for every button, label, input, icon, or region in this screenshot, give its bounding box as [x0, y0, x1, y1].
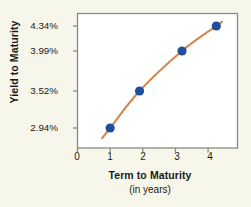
data-point-2 — [177, 46, 186, 55]
data-point-1 — [135, 86, 144, 95]
data-point-0 — [106, 123, 115, 132]
x-tick-marks — [78, 148, 209, 153]
y-tick-marks — [73, 26, 78, 128]
plot-area — [0, 0, 251, 207]
chart-figure: Yield to Maturity 4.34% 3.99% 3.52% 2.94… — [0, 0, 251, 207]
data-point-3 — [212, 21, 221, 30]
plot-frame — [78, 14, 238, 149]
